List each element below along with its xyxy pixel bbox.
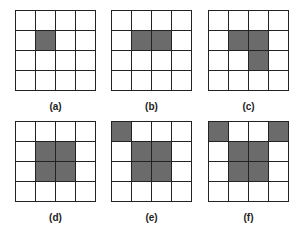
- empty-cell: [16, 31, 35, 50]
- panel-b: (b): [111, 10, 193, 91]
- panel-e: (e): [111, 121, 193, 202]
- filled-cell: [229, 162, 248, 181]
- empty-cell: [172, 142, 191, 161]
- filled-cell: [209, 122, 228, 141]
- filled-cell: [269, 122, 288, 141]
- empty-cell: [16, 71, 35, 90]
- empty-cell: [76, 142, 95, 161]
- panel-a: (a): [15, 10, 97, 91]
- empty-cell: [249, 122, 268, 141]
- empty-cell: [229, 122, 248, 141]
- empty-cell: [209, 142, 228, 161]
- empty-cell: [76, 71, 95, 90]
- cell-grid: [111, 121, 192, 202]
- empty-cell: [56, 71, 75, 90]
- filled-cell: [249, 162, 268, 181]
- empty-cell: [56, 182, 75, 201]
- empty-cell: [16, 162, 35, 181]
- panel-d: (d): [15, 121, 97, 202]
- filled-cell: [132, 31, 151, 50]
- filled-cell: [36, 31, 55, 50]
- filled-cell: [249, 142, 268, 161]
- empty-cell: [76, 11, 95, 30]
- empty-cell: [132, 182, 151, 201]
- empty-cell: [172, 31, 191, 50]
- empty-cell: [36, 122, 55, 141]
- empty-cell: [269, 162, 288, 181]
- empty-cell: [76, 182, 95, 201]
- empty-cell: [209, 71, 228, 90]
- empty-cell: [152, 11, 171, 30]
- empty-cell: [269, 31, 288, 50]
- filled-cell: [36, 142, 55, 161]
- empty-cell: [76, 31, 95, 50]
- empty-cell: [112, 31, 131, 50]
- empty-cell: [112, 162, 131, 181]
- empty-cell: [152, 51, 171, 70]
- empty-cell: [269, 142, 288, 161]
- empty-cell: [172, 51, 191, 70]
- cell-grid: [15, 10, 96, 91]
- empty-cell: [229, 182, 248, 201]
- empty-cell: [209, 31, 228, 50]
- empty-cell: [56, 11, 75, 30]
- empty-cell: [172, 182, 191, 201]
- panel-label: (d): [15, 212, 96, 223]
- empty-cell: [112, 51, 131, 70]
- cell-grid: [111, 10, 192, 91]
- empty-cell: [249, 182, 268, 201]
- empty-cell: [112, 71, 131, 90]
- empty-cell: [229, 71, 248, 90]
- empty-cell: [16, 11, 35, 30]
- empty-cell: [36, 11, 55, 30]
- empty-cell: [132, 71, 151, 90]
- filled-cell: [36, 162, 55, 181]
- empty-cell: [36, 51, 55, 70]
- filled-cell: [152, 162, 171, 181]
- cell-grid: [15, 121, 96, 202]
- empty-cell: [209, 11, 228, 30]
- filled-cell: [249, 51, 268, 70]
- filled-cell: [56, 142, 75, 161]
- empty-cell: [269, 71, 288, 90]
- empty-cell: [16, 51, 35, 70]
- panel-label: (f): [208, 212, 289, 223]
- empty-cell: [229, 51, 248, 70]
- cell-grid: [208, 10, 289, 91]
- empty-cell: [16, 182, 35, 201]
- empty-cell: [209, 162, 228, 181]
- cell-grid: [208, 121, 289, 202]
- empty-cell: [209, 51, 228, 70]
- empty-cell: [152, 71, 171, 90]
- empty-cell: [152, 122, 171, 141]
- filled-cell: [152, 31, 171, 50]
- filled-cell: [132, 142, 151, 161]
- empty-cell: [76, 51, 95, 70]
- empty-cell: [209, 182, 228, 201]
- empty-cell: [269, 182, 288, 201]
- panel-label: (a): [15, 101, 96, 112]
- empty-cell: [132, 11, 151, 30]
- empty-cell: [269, 51, 288, 70]
- panel-f: (f): [208, 121, 290, 202]
- empty-cell: [172, 71, 191, 90]
- empty-cell: [16, 122, 35, 141]
- empty-cell: [172, 122, 191, 141]
- panel-label: (b): [111, 101, 192, 112]
- empty-cell: [56, 122, 75, 141]
- filled-cell: [132, 162, 151, 181]
- empty-cell: [56, 31, 75, 50]
- empty-cell: [112, 11, 131, 30]
- empty-cell: [36, 71, 55, 90]
- filled-cell: [249, 31, 268, 50]
- empty-cell: [132, 122, 151, 141]
- empty-cell: [229, 11, 248, 30]
- empty-cell: [249, 71, 268, 90]
- filled-cell: [229, 31, 248, 50]
- empty-cell: [112, 142, 131, 161]
- panel-c: (c): [208, 10, 290, 91]
- panel-label: (c): [208, 101, 289, 112]
- filled-cell: [152, 142, 171, 161]
- empty-cell: [112, 182, 131, 201]
- panel-label: (e): [111, 212, 192, 223]
